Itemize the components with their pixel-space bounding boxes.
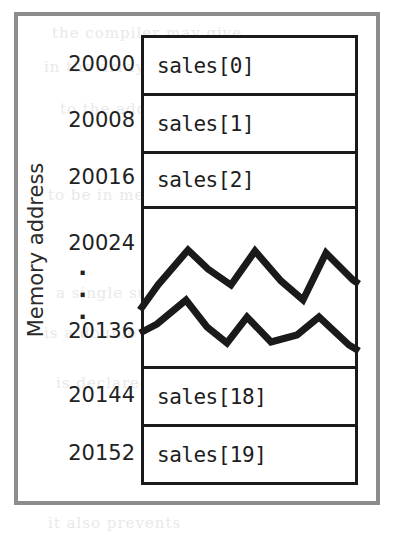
memory-cell-table: sales[0] sales[1] sales[2] sales[18] sal…: [141, 35, 358, 485]
memory-cell: sales[18]: [144, 369, 355, 424]
ellipsis-dot: ·: [78, 284, 87, 306]
figure-page: the compiler may give in the array and t…: [0, 0, 402, 535]
vertical-ellipsis: · · ·: [78, 262, 87, 328]
address-label: 20152: [15, 441, 135, 465]
memory-cell-elided-top: [144, 209, 355, 269]
address-column: 20000 20008 20016 20024 20136 20144 2015…: [15, 0, 135, 535]
address-label: 20016: [15, 165, 135, 189]
address-label: 20024: [15, 231, 135, 255]
memory-cell-elided-bottom: [144, 308, 355, 366]
address-label: 20008: [15, 108, 135, 132]
memory-cell: sales[0]: [144, 38, 355, 93]
address-label: 20144: [15, 383, 135, 407]
address-label: 20000: [15, 52, 135, 76]
ellipsis-dot: ·: [78, 306, 87, 328]
memory-cell: sales[1]: [144, 96, 355, 151]
memory-cell: sales[2]: [144, 154, 355, 206]
address-label: 20136: [15, 319, 135, 343]
ellipsis-dot: ·: [78, 262, 87, 284]
memory-cell: sales[19]: [144, 427, 355, 482]
